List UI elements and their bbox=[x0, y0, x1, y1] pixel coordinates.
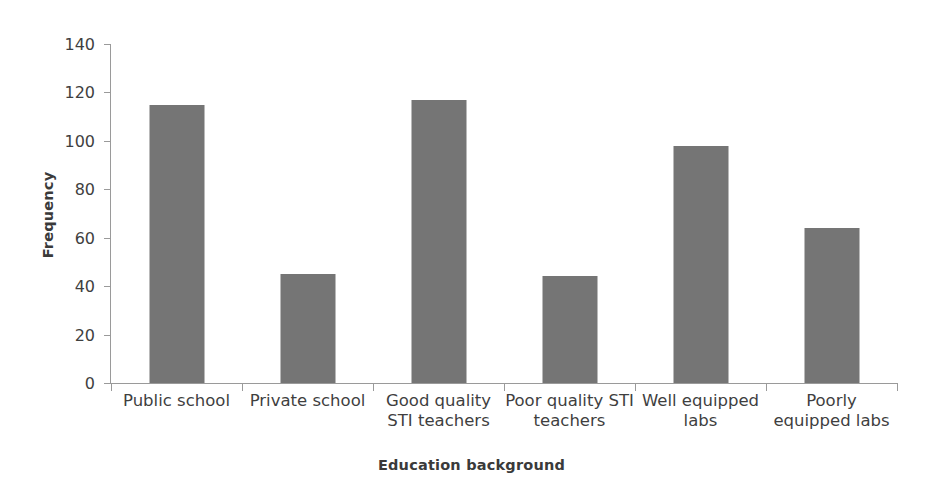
x-tick-mark bbox=[242, 384, 243, 391]
y-tick-label: 0 bbox=[0, 374, 104, 393]
x-tick-label: Poorly equipped labs bbox=[766, 391, 897, 431]
y-tick-mark bbox=[104, 286, 111, 287]
x-tick-mark bbox=[635, 384, 636, 391]
x-tick-label: Well equipped labs bbox=[635, 391, 766, 431]
y-tick-mark bbox=[104, 44, 111, 45]
x-tick-label: Private school bbox=[242, 391, 373, 411]
x-tick-mark bbox=[373, 384, 374, 391]
y-tick-label: 20 bbox=[0, 325, 104, 344]
bar-slot bbox=[373, 44, 504, 383]
bar bbox=[804, 228, 859, 383]
y-tick-mark bbox=[104, 141, 111, 142]
y-axis-tick-labels: 020406080100120140 bbox=[0, 0, 104, 498]
x-axis-tick-labels: Public schoolPrivate schoolGood quality … bbox=[111, 391, 897, 451]
x-tick-mark bbox=[111, 384, 112, 391]
y-tick-label: 80 bbox=[0, 180, 104, 199]
bar-slot bbox=[635, 44, 766, 383]
y-tick-label: 40 bbox=[0, 277, 104, 296]
bar-slot bbox=[242, 44, 373, 383]
bar-chart: Frequency 020406080100120140 Public scho… bbox=[0, 0, 943, 498]
bar bbox=[542, 276, 597, 383]
bar-slot bbox=[766, 44, 897, 383]
bar bbox=[280, 274, 335, 383]
x-tick-mark bbox=[766, 384, 767, 391]
y-tick-mark bbox=[104, 189, 111, 190]
bar-slot bbox=[504, 44, 635, 383]
y-tick-mark bbox=[104, 238, 111, 239]
x-tick-label: Good quality STI teachers bbox=[373, 391, 504, 431]
x-tick-mark bbox=[897, 384, 898, 391]
bar bbox=[411, 100, 466, 383]
y-tick-label: 100 bbox=[0, 131, 104, 150]
bar bbox=[149, 105, 204, 383]
y-tick-label: 60 bbox=[0, 228, 104, 247]
x-tick-label: Poor quality STI teachers bbox=[504, 391, 635, 431]
x-axis-title: Education background bbox=[0, 457, 943, 473]
x-tick-label: Public school bbox=[111, 391, 242, 411]
bar bbox=[673, 146, 728, 383]
bar-slot bbox=[111, 44, 242, 383]
y-tick-mark bbox=[104, 335, 111, 336]
y-tick-mark bbox=[104, 92, 111, 93]
y-tick-mark bbox=[104, 383, 111, 384]
plot-area bbox=[111, 44, 897, 383]
y-tick-label: 120 bbox=[0, 83, 104, 102]
x-tick-mark bbox=[504, 384, 505, 391]
y-tick-label: 140 bbox=[0, 35, 104, 54]
